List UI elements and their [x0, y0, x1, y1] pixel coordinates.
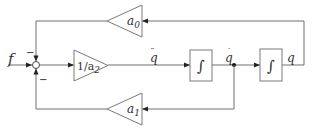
arrow-icon	[184, 63, 190, 68]
arrow-icon	[68, 63, 74, 68]
arrow-icon	[142, 19, 148, 24]
integrator-1-symbol: ∫	[197, 57, 205, 75]
arrow-icon	[142, 107, 148, 112]
q-dot-feedback-line	[142, 65, 234, 109]
sign-top: −	[26, 47, 34, 58]
q-label: q	[287, 51, 295, 65]
summing-junction	[33, 62, 40, 69]
a0-to-junction-line	[36, 21, 107, 62]
arrow-icon	[254, 63, 260, 68]
q-ddot-accent: ¨	[151, 48, 155, 57]
sign-bottom: −	[39, 74, 47, 85]
arrow-icon	[26, 63, 32, 68]
block-diagram: f − − 1/a2 a0 a1 ∫ ∫ q ¨ q ˙ q	[0, 0, 313, 134]
q-dot-accent: ˙	[227, 48, 231, 57]
arrow-icon	[34, 69, 39, 75]
integrator-2-symbol: ∫	[267, 57, 275, 75]
